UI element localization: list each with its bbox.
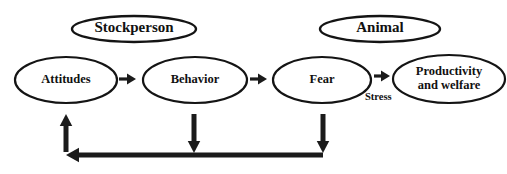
node-fear[interactable]: Fear xyxy=(273,57,371,103)
stress-label: Stress xyxy=(365,91,392,102)
arrow-head-fear-to-feedback xyxy=(317,141,329,153)
arrow-head-behavior-to-fear xyxy=(258,73,267,84)
arrow-head-feedback-to-attitudes xyxy=(60,114,72,126)
arrow-head-attitudes-to-behavior xyxy=(127,73,136,84)
node-label-animal: Animal xyxy=(356,19,404,35)
arrow-attitudes-to-behavior xyxy=(119,73,136,84)
diagram-canvas: StockpersonAnimal AttitudesBehaviorFearP… xyxy=(0,0,507,174)
arrow-fear-to-productivity xyxy=(374,70,390,81)
node-label-stockperson: Stockperson xyxy=(94,19,174,35)
node-productivity-and-welfare[interactable]: Productivityand welfare xyxy=(393,55,505,103)
node-label-productivity-and-welfare: Productivity xyxy=(416,64,483,78)
node-behavior[interactable]: Behavior xyxy=(143,57,247,103)
node-label-fear: Fear xyxy=(310,72,335,86)
node-label-productivity-and-welfare: and welfare xyxy=(418,78,481,92)
feedback-loop-layer xyxy=(60,114,329,162)
arrow-head-fear-to-productivity xyxy=(381,70,390,81)
node-attitudes[interactable]: Attitudes xyxy=(15,57,117,103)
group-nodes-layer: StockpersonAnimal xyxy=(72,16,440,42)
causal-flow-diagram: StockpersonAnimal AttitudesBehaviorFearP… xyxy=(0,0,507,174)
arrow-behavior-to-fear xyxy=(250,73,267,84)
edge-labels-layer: Stress xyxy=(365,91,392,102)
node-label-behavior: Behavior xyxy=(171,72,220,86)
arrow-head-behavior-to-feedback xyxy=(188,141,200,153)
node-animal[interactable]: Animal xyxy=(320,16,440,42)
node-label-attitudes: Attitudes xyxy=(41,72,90,86)
node-stockperson[interactable]: Stockperson xyxy=(72,16,196,42)
